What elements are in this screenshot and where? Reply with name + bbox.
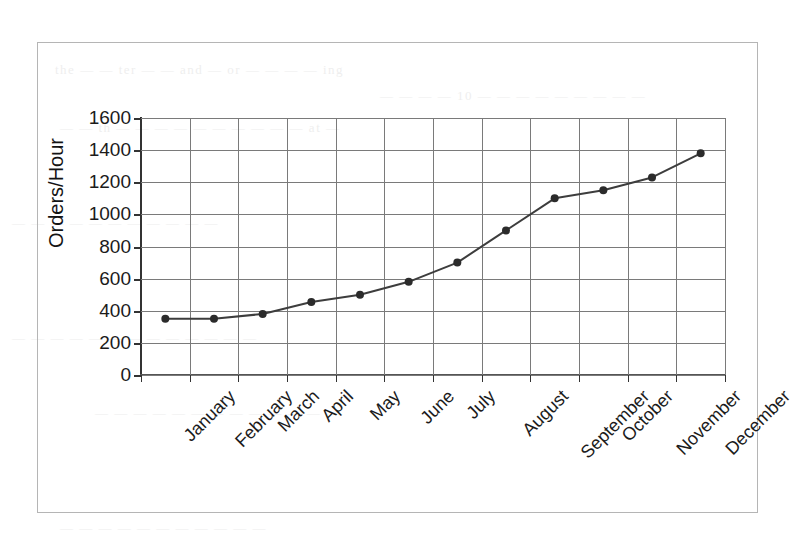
figure-frame <box>37 42 758 513</box>
ghost-text-line: — — — — — — — — — — — <box>60 520 267 536</box>
